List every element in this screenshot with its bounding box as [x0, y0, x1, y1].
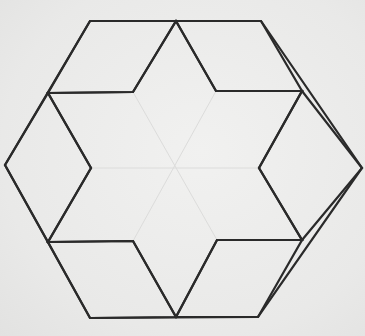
star-hexagon-figure [0, 0, 365, 336]
rhombus-right [259, 91, 362, 240]
rhombi-group [5, 21, 362, 318]
six-pointed-star [48, 21, 302, 317]
rhombus-left [5, 93, 91, 242]
outer-hexagon [5, 21, 362, 318]
diagram-canvas [0, 0, 365, 336]
faint-construction-lines [91, 91, 259, 241]
rhombus-top-left [48, 21, 176, 93]
rhombus-bottom-right [176, 240, 302, 317]
rhombus-bottom-left [48, 241, 176, 318]
